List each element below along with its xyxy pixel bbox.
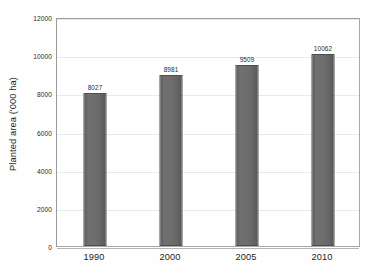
bar-2005[interactable] (236, 65, 259, 246)
bar-group-1990[interactable]: 8027 (84, 17, 107, 246)
bar-group-2005[interactable]: 9509 (236, 17, 259, 246)
bars-layer: 80278981950910062 (57, 19, 359, 246)
y-tick-label: 12000 (33, 15, 52, 22)
gridline-0 (57, 248, 359, 249)
bar-value-label: 8981 (164, 66, 179, 73)
y-tick-label: 2000 (37, 205, 52, 212)
bar-value-label: 9509 (240, 56, 255, 63)
bar-value-label: 8027 (88, 84, 103, 91)
x-tick-label-2010: 2010 (311, 252, 332, 262)
y-axis-title-text: Planted area ('000 ha) (8, 77, 18, 171)
bar-group-2000[interactable]: 8981 (160, 17, 183, 246)
y-tick-label: 6000 (37, 129, 52, 136)
y-tick-label: 8000 (37, 91, 52, 98)
x-tick-label-2005: 2005 (235, 252, 256, 262)
bar-group-2010[interactable]: 10062 (312, 17, 335, 246)
bar-chart-figure: Planted area ('000 ha) 02000400060008000… (0, 0, 371, 280)
y-tick-label: 0 (48, 244, 52, 251)
plot-area: 80278981950910062 (56, 18, 360, 247)
bar-1990[interactable] (84, 93, 107, 246)
bar-2010[interactable] (312, 54, 335, 246)
x-axis-tick-labels: 1990200020052010 (56, 252, 360, 268)
x-tick-label-2000: 2000 (159, 252, 180, 262)
x-tick-label-1990: 1990 (83, 252, 104, 262)
bar-value-label: 10062 (314, 45, 332, 52)
y-tick-label: 4000 (37, 167, 52, 174)
y-axis-title: Planted area ('000 ha) (6, 0, 20, 248)
bar-2000[interactable] (160, 75, 183, 246)
y-axis-tick-labels: 020004000600080001000012000 (22, 18, 55, 247)
y-tick-label: 10000 (33, 53, 52, 60)
